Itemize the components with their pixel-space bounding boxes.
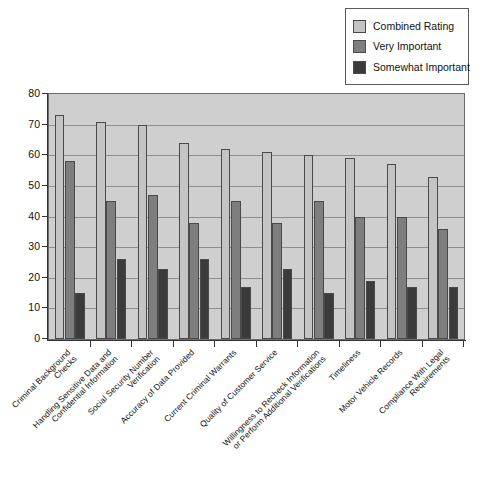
legend-label-somewhat-important: Somewhat Important [373,62,470,73]
legend-swatch-somewhat-important [353,61,366,74]
bar-1-2 [148,195,158,339]
bar-0-2 [138,125,148,339]
bar-2-7 [366,281,376,339]
x-axis-tick [422,341,423,347]
chart-legend: Combined Rating Very Important Somewhat … [345,8,469,85]
x-axis-label-7: Timeliness [328,348,363,383]
y-axis-tick-label: 30 [0,240,40,252]
y-axis-tick [42,338,47,339]
bar-1-0 [65,161,75,339]
bar-1-8 [397,217,407,340]
bar-2-3 [200,259,210,339]
legend-label-very-important: Very Important [373,41,441,52]
x-axis-tick [380,341,381,347]
x-axis-line [47,340,466,341]
x-axis-tick [131,341,132,347]
bar-2-5 [283,269,293,339]
plot-area [48,93,465,340]
y-axis-tick [42,246,47,247]
bar-0-3 [179,143,189,339]
x-axis-tick [173,341,174,347]
bar-2-1 [117,259,127,339]
x-axis-tick [90,341,91,347]
bar-series-container [49,94,464,339]
x-axis-tick [214,341,215,347]
y-axis-tick [42,93,47,94]
bar-chart: Combined Rating Very Important Somewhat … [0,0,481,502]
y-axis-tick [42,124,47,125]
bar-2-2 [158,269,168,339]
legend-item-combined-rating: Combined Rating [353,17,462,36]
bar-1-5 [272,223,282,339]
bar-0-9 [428,177,438,339]
legend-swatch-very-important [353,40,366,53]
x-axis-tick [463,341,464,347]
legend-label-combined-rating: Combined Rating [373,21,454,32]
x-axis-tick [256,341,257,347]
bar-2-4 [241,287,251,339]
bar-0-8 [387,164,397,339]
bar-0-7 [345,158,355,339]
y-axis-tick [42,277,47,278]
y-axis-tick [42,307,47,308]
y-axis-tick-label: 80 [0,87,40,99]
bar-1-3 [189,223,199,339]
y-axis-tick [42,216,47,217]
bar-2-8 [407,287,417,339]
legend-item-very-important: Very Important [353,37,462,56]
bar-1-9 [438,229,448,339]
y-axis-tick-label: 40 [0,210,40,222]
bar-0-5 [262,152,272,339]
x-axis-label-6: Willingness to Recheck Information or Pe… [221,348,328,455]
y-axis-tick [42,154,47,155]
bar-1-4 [231,201,241,339]
bar-0-6 [304,155,314,339]
y-axis-tick-label: 0 [0,332,40,344]
y-axis-line [47,93,48,341]
bar-1-1 [106,201,116,339]
bar-2-6 [324,293,334,339]
y-axis-tick-label: 60 [0,148,40,160]
bar-1-7 [355,217,365,340]
bar-2-0 [75,293,85,339]
y-axis-tick-label: 50 [0,179,40,191]
y-axis-tick-label: 70 [0,118,40,130]
y-axis-tick [42,185,47,186]
bar-1-6 [314,201,324,339]
bar-0-0 [55,115,65,339]
bar-0-1 [96,122,106,339]
bar-2-9 [449,287,459,339]
legend-swatch-combined-rating [353,20,366,33]
x-axis-label-4: Current Criminal Warrants [162,348,238,424]
bar-0-4 [221,149,231,339]
y-axis-labels: 01020304050607080 [0,93,40,341]
x-axis-tick [339,341,340,347]
x-axis-category-labels: Criminal Background ChecksHandling Sensi… [0,344,481,494]
y-axis-tick-label: 20 [0,271,40,283]
legend-item-somewhat-important: Somewhat Important [353,58,462,77]
x-axis-tick [297,341,298,347]
y-axis-tick-label: 10 [0,301,40,313]
